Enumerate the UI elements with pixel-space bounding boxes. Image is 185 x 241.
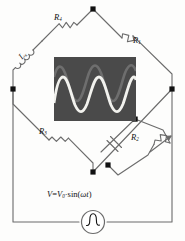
node-top-dot (90, 6, 95, 11)
label-variable-resistor-r2: R2 (131, 133, 139, 142)
wire-left-lower (13, 68, 15, 89)
resistor-r3-symbol (49, 137, 68, 141)
node-right-dot (169, 86, 174, 91)
scope-trace-bright (54, 77, 136, 112)
label-resistor-r1: R1 (133, 36, 141, 45)
label-resistor-r4: R4 (54, 13, 62, 22)
node-branch-lower-dot (105, 162, 110, 167)
oscilloscope-traces (54, 57, 136, 121)
wire-bottom-left-2 (68, 138, 93, 172)
node-left-dot (10, 86, 15, 91)
wire-top-left-2 (42, 24, 59, 41)
wire-top-right (93, 9, 122, 38)
label-source-equation: V=V0·sin(ωt) (47, 190, 92, 199)
wire-left-upper (33, 41, 42, 50)
wire-cap-branch-top (101, 119, 135, 152)
resistor-r4-symbol (59, 22, 77, 27)
node-bottom-dot (90, 169, 95, 174)
label-resistor-r3: R3 (39, 127, 47, 136)
oscilloscope-screen (54, 57, 136, 121)
circuit-diagram: R4 R1 Lx R3 R2 V=V0·sin(ωt) (0, 0, 185, 241)
